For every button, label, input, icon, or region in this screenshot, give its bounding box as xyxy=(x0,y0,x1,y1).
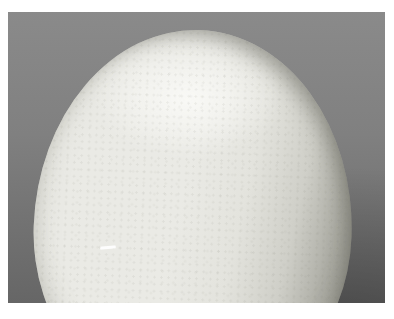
egg-photo xyxy=(8,12,385,303)
page xyxy=(0,0,394,319)
